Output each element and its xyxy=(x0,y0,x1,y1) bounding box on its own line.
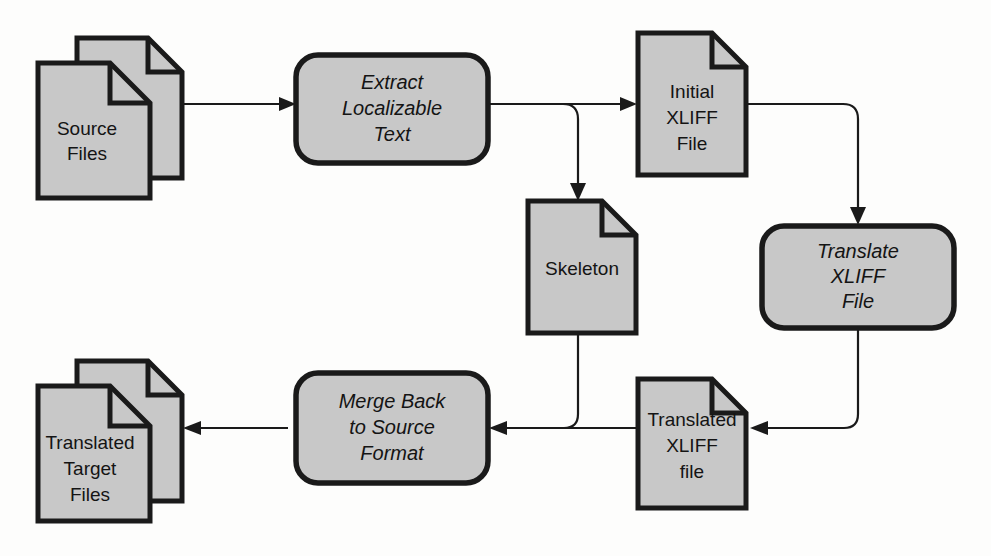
node-label-line: Merge Back xyxy=(339,390,447,412)
arrow-head-icon xyxy=(570,183,586,201)
edge-initial-xliff-to-translate xyxy=(747,104,866,225)
arrow-head-icon xyxy=(489,421,507,435)
connectors-layer xyxy=(152,97,866,435)
node-translate-xliff-file[interactable]: Translate XLIFF File xyxy=(762,226,954,328)
node-label-line: Files xyxy=(70,484,110,505)
edge-line xyxy=(563,104,578,188)
node-label-line: Format xyxy=(360,442,425,464)
node-extract-localizable-text[interactable]: Extract Localizable Text xyxy=(296,55,488,163)
arrow-head-icon xyxy=(850,207,866,225)
node-translated-target-files[interactable]: Translated Target Files xyxy=(38,361,182,521)
node-label-line: file xyxy=(680,461,704,482)
node-merge-back-to-source-format[interactable]: Merge Back to Source Format xyxy=(296,373,488,483)
node-label-line: Initial xyxy=(670,81,714,102)
node-label-line: Target xyxy=(64,458,118,479)
node-source-files[interactable]: Source Files xyxy=(38,38,182,198)
edge-line xyxy=(747,104,858,212)
node-label-line: XLIFF xyxy=(830,265,887,287)
edge-line xyxy=(762,328,858,428)
edge-skeleton-to-merge xyxy=(508,333,578,428)
node-label-line: Localizable xyxy=(342,97,442,119)
edge-line xyxy=(508,333,578,428)
arrow-head-icon xyxy=(750,421,768,435)
edge-extract-to-skeleton xyxy=(563,104,586,201)
node-label-line: Translated xyxy=(45,432,134,453)
node-label-line: File xyxy=(842,290,874,312)
arrow-head-icon xyxy=(183,421,201,435)
node-initial-xliff-file[interactable]: Initial XLIFF File xyxy=(638,33,746,175)
node-label-line: File xyxy=(677,133,708,154)
node-label-line: XLIFF xyxy=(666,435,718,456)
edge-translate-to-translated-xliff xyxy=(750,328,858,435)
node-label-line: Translate xyxy=(817,240,899,262)
node-label-line: Skeleton xyxy=(545,258,619,279)
node-label-line: Extract xyxy=(361,71,425,93)
node-label-line: Source xyxy=(57,118,117,139)
node-label-line: XLIFF xyxy=(666,107,718,128)
edge-merge-to-translated-target xyxy=(183,421,288,435)
flowchart-canvas: Source Files Extract Localizable Text In… xyxy=(0,0,991,556)
node-translated-xliff-file[interactable]: Translated XLIFF file xyxy=(638,379,746,508)
node-label-line: Translated xyxy=(647,409,736,430)
node-label-line: to Source xyxy=(349,416,435,438)
edge-translated-xliff-to-merge xyxy=(489,421,637,435)
node-label-line: Files xyxy=(67,143,107,164)
flowchart-diagram: Source Files Extract Localizable Text In… xyxy=(0,0,991,556)
node-label-line: Text xyxy=(373,123,412,145)
node-skeleton[interactable]: Skeleton xyxy=(528,201,636,333)
arrow-head-icon xyxy=(620,97,637,111)
